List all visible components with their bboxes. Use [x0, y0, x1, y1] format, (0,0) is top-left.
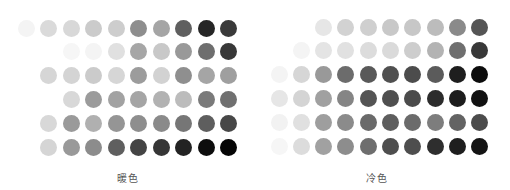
tone-dot: [293, 42, 310, 59]
tone-dot: [360, 66, 377, 83]
tone-dot: [360, 19, 377, 36]
tone-dot: [449, 66, 466, 83]
tone-dot: [449, 19, 466, 36]
tone-dot: [382, 19, 399, 36]
tone-dot: [315, 19, 332, 36]
warm-tone-label: 暖色: [98, 170, 158, 185]
tone-dot: [337, 66, 354, 83]
tone-dot: [360, 114, 377, 131]
tone-dot: [382, 42, 399, 59]
tone-dot: [404, 114, 421, 131]
tone-dot: [337, 19, 354, 36]
tone-dot: [315, 66, 332, 83]
tone-dot: [471, 19, 488, 36]
tone-dot: [471, 138, 488, 155]
tone-dot: [337, 90, 354, 107]
tone-dot: [404, 42, 421, 59]
tone-dot: [271, 66, 288, 83]
tone-dot: [471, 114, 488, 131]
tone-dot: [449, 138, 466, 155]
tone-dot: [315, 114, 332, 131]
tone-dot: [315, 90, 332, 107]
tone-dot: [293, 138, 310, 155]
tone-dot: [427, 138, 444, 155]
tone-dot: [337, 114, 354, 131]
tone-dot: [271, 90, 288, 107]
tone-dot: [404, 66, 421, 83]
tone-dot: [360, 90, 377, 107]
tone-dot: [404, 138, 421, 155]
tone-dot: [271, 114, 288, 131]
tone-dot: [427, 90, 444, 107]
tone-dot: [427, 42, 444, 59]
tone-dot: [315, 42, 332, 59]
tone-dot: [449, 90, 466, 107]
tone-dot: [337, 42, 354, 59]
tone-dot: [382, 66, 399, 83]
tone-dot: [471, 66, 488, 83]
tone-dot: [471, 90, 488, 107]
tone-dot: [382, 114, 399, 131]
tone-dot: [449, 42, 466, 59]
tone-dot: [293, 66, 310, 83]
tone-dot: [449, 114, 466, 131]
tone-dot: [271, 138, 288, 155]
tone-dot: [382, 90, 399, 107]
tone-dot: [427, 19, 444, 36]
tone-dot: [427, 114, 444, 131]
tone-dot: [404, 90, 421, 107]
tone-dot: [315, 138, 332, 155]
tone-dot: [471, 42, 488, 59]
tone-dot: [360, 42, 377, 59]
tone-dot: [293, 90, 310, 107]
tone-dot: [382, 138, 399, 155]
tone-dot: [360, 138, 377, 155]
cool-tone-label: 冷色: [347, 170, 407, 185]
cool-tone-dot-grid: [0, 0, 510, 160]
tone-dot: [427, 66, 444, 83]
tone-dot: [404, 19, 421, 36]
tone-dot: [293, 114, 310, 131]
tone-dot: [337, 138, 354, 155]
